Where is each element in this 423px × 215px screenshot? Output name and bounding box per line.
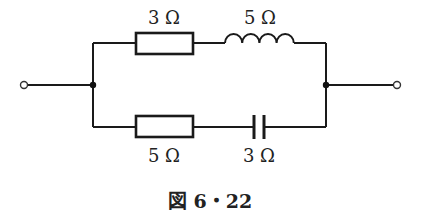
top-resistor: [136, 33, 193, 54]
left-terminal: [21, 82, 28, 89]
right-junction-node: [323, 82, 329, 88]
right-terminal: [394, 82, 401, 89]
bottom-resistor-label: 5 Ω: [148, 145, 180, 166]
capacitor-label: 3 Ω: [243, 145, 275, 166]
figure-caption: 図 6・22: [168, 186, 252, 213]
circuit-diagram: [0, 0, 423, 215]
inductor-coil: [225, 34, 294, 43]
left-junction-node: [90, 82, 96, 88]
bottom-resistor: [136, 116, 193, 137]
inductor-label: 5 Ω: [244, 7, 276, 28]
top-resistor-label: 3 Ω: [148, 7, 180, 28]
